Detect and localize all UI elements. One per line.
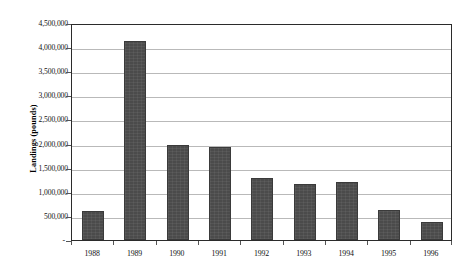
y-axis-tick-label: 1,000,000	[24, 189, 68, 197]
y-axis-tick-label: 3,500,000	[24, 68, 68, 76]
x-axis-tick-label-1991: 1991	[198, 249, 240, 259]
y-axis-tick-label: 500,000	[24, 213, 68, 221]
x-axis-tick-label-1990: 1990	[156, 249, 198, 259]
bar-1993[interactable]	[294, 184, 316, 240]
bar-1990[interactable]	[167, 145, 189, 240]
y-axis-tick-label: 3,000,000	[24, 92, 68, 100]
x-axis-tick-marks	[71, 241, 452, 246]
x-axis-tick-label-1992: 1992	[240, 249, 282, 259]
bar-slot	[411, 25, 453, 240]
x-axis-tick	[410, 241, 411, 245]
x-axis-tick-labels: 198819891990199119921993199419951996	[71, 249, 452, 265]
x-axis-tick	[451, 241, 452, 245]
bar-slot	[199, 25, 241, 240]
x-axis-tick-label-1989: 1989	[113, 249, 155, 259]
bars-layer	[72, 25, 451, 240]
bar-slot	[72, 25, 114, 240]
bar-slot	[368, 25, 410, 240]
bar-slot	[157, 25, 199, 240]
y-axis-tick-label: -	[21, 237, 68, 245]
y-axis-tick-label: 4,500,000	[24, 20, 68, 28]
bar-slot	[284, 25, 326, 240]
bar-slot	[241, 25, 283, 240]
x-axis-tick-label-1996: 1996	[410, 249, 452, 259]
x-axis-tick-label-1995: 1995	[367, 249, 409, 259]
bar-1992[interactable]	[251, 178, 273, 240]
bar-chart-figure: Landings (pounds) -500,0001,000,0001,500…	[0, 0, 469, 277]
y-axis-tick-label: 4,000,000	[24, 44, 68, 52]
bar-1995[interactable]	[378, 210, 400, 240]
x-axis-tick	[71, 241, 72, 245]
x-axis-tick-label-1994: 1994	[325, 249, 367, 259]
x-axis-tick	[113, 241, 114, 245]
bar-1991[interactable]	[209, 147, 231, 240]
x-axis-tick	[156, 241, 157, 245]
bar-1996[interactable]	[421, 222, 443, 240]
bar-1989[interactable]	[124, 41, 146, 240]
bar-1988[interactable]	[82, 211, 104, 240]
y-axis-tick-label: 1,500,000	[24, 165, 68, 173]
bar-slot	[326, 25, 368, 240]
y-axis-tick-label: 2,000,000	[24, 141, 68, 149]
y-axis-tick-labels: -500,0001,000,0001,500,0002,000,0002,500…	[24, 0, 68, 277]
y-axis-tick-label: 2,500,000	[24, 116, 68, 124]
x-axis-tick	[198, 241, 199, 245]
x-axis-tick	[325, 241, 326, 245]
x-axis-tick	[367, 241, 368, 245]
x-axis-tick-label-1988: 1988	[71, 249, 113, 259]
bar-1994[interactable]	[336, 182, 358, 240]
x-axis-tick-label-1993: 1993	[283, 249, 325, 259]
plot-area	[71, 24, 452, 241]
bar-slot	[114, 25, 156, 240]
x-axis-tick	[240, 241, 241, 245]
x-axis-tick	[283, 241, 284, 245]
